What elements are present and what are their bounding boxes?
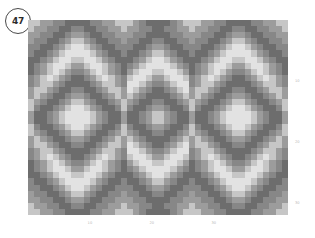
- heatmap-plot-area: [28, 20, 288, 215]
- figure-root: 47 102030 102030: [0, 0, 315, 238]
- y-tick-label: 30: [295, 201, 300, 205]
- figure-number-label: 47: [12, 16, 24, 26]
- heatmap-cell: [282, 209, 288, 215]
- x-tick-label: 20: [150, 221, 155, 225]
- x-tick-label: 30: [211, 221, 216, 225]
- x-tick-label: 10: [88, 221, 93, 225]
- y-tick-label: 10: [295, 79, 300, 83]
- heatmap-grid: [28, 20, 288, 215]
- y-tick-label: 20: [295, 140, 300, 144]
